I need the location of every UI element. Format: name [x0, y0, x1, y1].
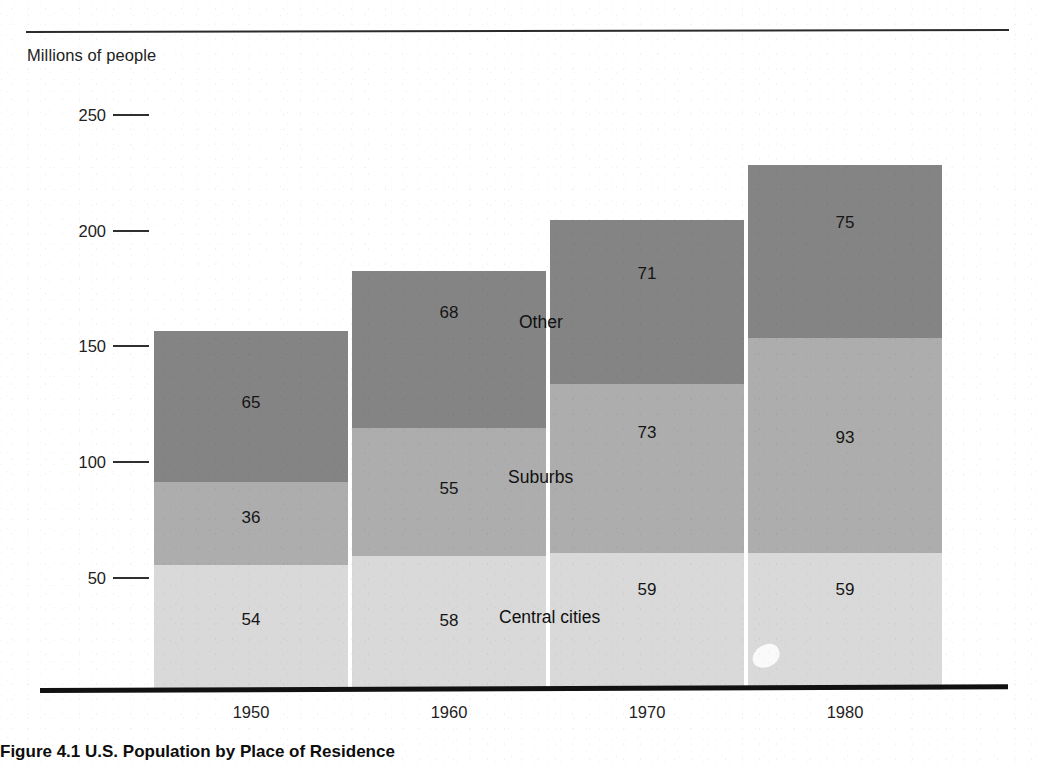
x-tick-label-1970: 1970	[548, 703, 746, 722]
plot-area: 65 36 54 68 55 58 71 73	[152, 110, 945, 690]
bar-segment-central-cities[interactable]: 54	[154, 565, 348, 690]
segment-value-other: 75	[748, 213, 942, 230]
y-tick-100: 100	[58, 452, 150, 472]
x-tick-label-1980: 1980	[746, 703, 944, 722]
bar-segment-central-cities[interactable]: 59	[748, 553, 942, 690]
top-divider-rule	[26, 29, 1009, 33]
bar-segment-other[interactable]: 75	[748, 165, 942, 339]
y-tick-mark	[113, 345, 149, 347]
x-tick-label-1950: 1950	[152, 703, 350, 722]
figure-container: Millions of people 250 200 150 100 50 65…	[0, 0, 1037, 762]
segment-value-other: 68	[352, 303, 546, 320]
bar-segment-suburbs[interactable]: 93	[748, 338, 942, 553]
y-tick-mark	[113, 230, 149, 232]
y-tick-mark	[113, 461, 149, 463]
segment-value-central-cities: 59	[748, 581, 942, 598]
y-tick-label: 50	[58, 568, 106, 588]
x-tick-label-1960: 1960	[350, 703, 548, 722]
bar-segment-other[interactable]: 65	[154, 331, 348, 481]
bar-segment-suburbs[interactable]: 55	[352, 428, 546, 555]
y-tick-150: 150	[58, 336, 150, 356]
y-tick-label: 200	[58, 221, 106, 241]
y-tick-50: 50	[58, 568, 150, 588]
segment-value-other: 71	[550, 264, 744, 281]
series-label-other: Other	[519, 314, 563, 332]
y-tick-250: 250	[58, 105, 150, 125]
bar-segment-other[interactable]: 68	[352, 271, 546, 428]
y-tick-mark	[113, 114, 149, 116]
figure-caption: Figure 4.1 U.S. Population by Place of R…	[0, 742, 395, 762]
series-label-central-cities: Central cities	[499, 609, 600, 627]
y-tick-label: 250	[58, 105, 106, 125]
y-tick-200: 200	[58, 221, 150, 241]
y-axis-title: Millions of people	[27, 46, 156, 65]
segment-value-suburbs: 93	[748, 429, 942, 446]
segment-value-other: 65	[154, 393, 348, 410]
segment-value-suburbs: 73	[550, 423, 744, 440]
segment-value-suburbs: 36	[154, 508, 348, 525]
bar-segment-other[interactable]: 71	[550, 220, 744, 384]
y-tick-label: 150	[58, 336, 106, 356]
y-tick-label: 100	[58, 452, 106, 472]
segment-value-central-cities: 54	[154, 611, 348, 628]
series-label-suburbs: Suburbs	[508, 469, 573, 487]
bar-segment-suburbs[interactable]: 73	[550, 384, 744, 553]
stacked-bar-1980[interactable]: 75 93 59	[746, 165, 944, 690]
bar-segment-suburbs[interactable]: 36	[154, 482, 348, 565]
stacked-bar-1950[interactable]: 65 36 54	[152, 331, 350, 690]
segment-value-central-cities: 59	[550, 581, 744, 598]
y-tick-mark	[113, 577, 149, 579]
